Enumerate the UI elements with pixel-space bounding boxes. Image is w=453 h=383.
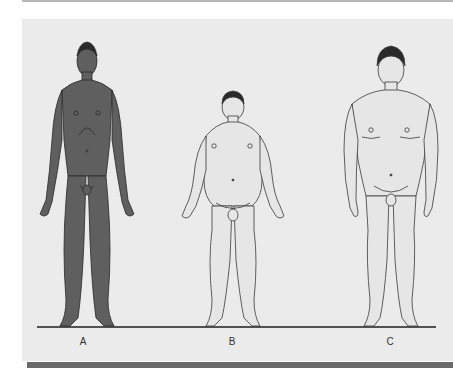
figure-c xyxy=(344,46,438,326)
body-figures xyxy=(0,0,453,383)
label-a: A xyxy=(73,336,93,347)
figure-a xyxy=(40,42,134,326)
label-b: B xyxy=(222,336,242,347)
label-c: C xyxy=(380,336,400,347)
figure-b xyxy=(182,91,284,326)
